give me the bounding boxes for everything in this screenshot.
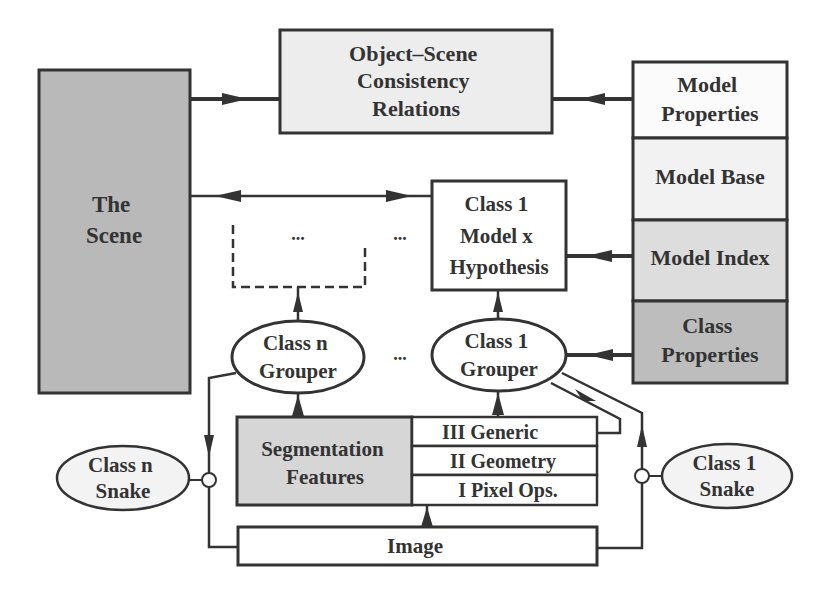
edge-grouperN-to-image [209,373,238,547]
arrow-head-seg-grouperN [292,395,304,416]
node-class-1-snake: Class 1 Snake [662,444,792,508]
node-class-1-grouper: Class 1 Grouper [432,319,566,391]
arrow-head-image-grouper1 [637,425,647,447]
model-base-label: Model Base [655,164,765,189]
node-segmentation-features: Segmentation Features III Generic II Geo… [237,417,597,505]
arrow-head-image-level1 [421,507,433,527]
arrow-head-grouperN-dashed [293,292,303,312]
arrow-head-to-hypothesis [386,190,412,202]
arrow-head-grouperN-image [204,435,214,457]
image-label: Image [387,534,443,558]
arrow-head-to-scene [215,190,241,202]
grouper-dots: ... [393,344,407,364]
level-1-label: I Pixel Ops. [458,479,557,502]
model-index-label: Model Index [650,245,769,270]
arrow-head-modelindex-hypothesis [586,250,612,262]
segmentation-box [237,417,412,505]
diagram-canvas: The Scene Object–Scene Consistency Relat… [0,0,829,597]
junction-classN-snake [202,473,216,487]
node-hypothesis: Class 1 Model x Hypothesis [432,181,566,290]
junction-class1-snake [635,469,649,483]
node-dashed-placeholder: ... [233,224,365,287]
level-3-label: III Generic [442,421,538,443]
between-dots: ... [393,224,407,244]
node-class-n-grouper: Class n Grouper [232,321,364,393]
arrow-head-modelprops-consistency [580,93,605,105]
node-consistency-relations: Object–Scene Consistency Relations [280,30,552,133]
dashed-dots: ... [291,224,305,244]
node-class-n-snake: Class n Snake [57,446,189,510]
node-model-stack: Model Properties Model Base Model Index … [633,62,787,383]
arrow-head-grouper1-hypothesis [493,292,503,312]
arrow-head-level3-grouper1 [492,393,504,415]
arrow-head-classprops-grouper [588,349,613,361]
arrow-head-grouper1-level3 [575,389,596,401]
arrow-head-scene-consistency [222,93,248,105]
node-the-scene: The Scene [39,70,190,393]
level-2-label: II Geometry [450,450,556,473]
node-image: Image [238,527,597,565]
